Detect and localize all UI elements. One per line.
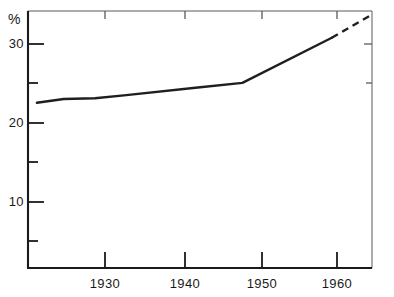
x-axis-top-ticks [105,11,337,19]
line-chart: % 30 20 10 1930 1940 1950 1960 [0,0,394,297]
x-tick-label-1930: 1930 [76,277,134,290]
x-axis-major-ticks [105,252,337,268]
x-tick-label-1940: 1940 [156,277,214,290]
data-line-observed [37,38,332,103]
y-tick-label-20: 20 [0,116,24,129]
x-tick-label-1950: 1950 [233,277,291,290]
chart-plot-area [0,0,394,297]
y-axis-major-ticks [28,44,44,202]
y-tick-label-30: 30 [0,37,24,50]
axis-frame [27,11,372,268]
x-tick-label-1960: 1960 [308,277,366,290]
y-axis-right-ticks [364,44,372,83]
y-axis-minor-ticks [28,83,38,241]
y-tick-label-10: 10 [0,195,24,208]
y-axis-unit-label: % [8,12,20,26]
